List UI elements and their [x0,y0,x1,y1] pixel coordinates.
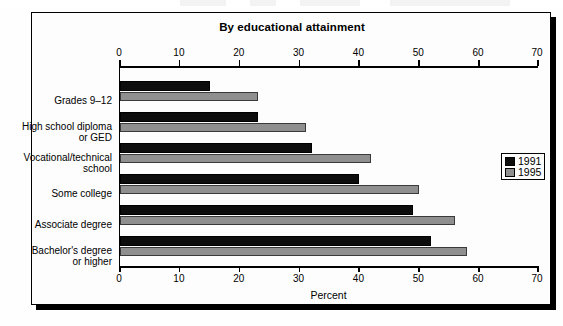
category-label: High school diplomaor GED [0,121,112,144]
bar-1995 [120,185,419,195]
category-label: Grades 9–12 [0,95,112,107]
x-ticklabel-top-0: 0 [104,47,134,58]
x-axis-title: Percent [119,289,538,301]
x-tick-bottom-40 [358,266,360,272]
plot-area: 0 10 20 30 40 50 60 70 0 10 20 30 40 50 … [119,57,538,277]
x-tick-top-10 [179,60,181,66]
x-ticklabel-bottom-50: 50 [403,273,433,284]
x-tick-top-50 [418,60,420,66]
x-tick-bottom-10 [179,266,181,272]
bar-1991 [120,236,431,246]
x-axis-top-line [119,66,538,68]
x-ticklabel-top-30: 30 [284,47,314,58]
x-tick-bottom-30 [299,266,301,272]
x-tick-bottom-0 [119,266,121,272]
bar-1991 [120,112,258,122]
bar-1995 [120,123,306,133]
x-tick-top-0 [119,60,121,66]
legend-swatch-1991-icon [505,157,515,166]
bar-1995 [120,247,467,257]
legend-item-1995: 1995 [505,167,541,177]
category-label: Some college [0,188,112,200]
x-axis-bottom-line [119,266,538,268]
x-tick-top-60 [478,60,480,66]
x-tick-top-20 [239,60,241,66]
x-ticklabel-top-10: 10 [164,47,194,58]
x-ticklabel-bottom-40: 40 [343,273,373,284]
chart-frame: By educational attainment 0 10 20 30 40 … [31,12,551,305]
x-ticklabel-bottom-20: 20 [224,273,254,284]
legend-swatch-1995-icon [505,168,515,177]
x-ticklabel-bottom-0: 0 [104,273,134,284]
x-tick-top-30 [299,60,301,66]
x-tick-bottom-70 [537,266,539,272]
x-ticklabel-top-60: 60 [463,47,493,58]
legend-label-1995: 1995 [518,167,541,177]
x-ticklabel-bottom-70: 70 [522,273,552,284]
bar-1991 [120,174,359,184]
bar-1991 [120,143,312,153]
legend-item-1991: 1991 [505,156,541,166]
x-ticklabel-top-20: 20 [224,47,254,58]
page-top-sliver [0,0,563,7]
chart-screenshot: By educational attainment 0 10 20 30 40 … [0,0,563,326]
x-ticklabel-bottom-30: 30 [284,273,314,284]
x-ticklabel-top-50: 50 [403,47,433,58]
bar-1991 [120,205,413,215]
x-ticklabel-bottom-10: 10 [164,273,194,284]
bar-1991 [120,81,210,91]
x-tick-top-40 [358,60,360,66]
x-ticklabel-top-40: 40 [343,47,373,58]
category-label: Bachelor's degreeor higher [0,245,112,268]
bar-1995 [120,154,371,164]
category-label: Associate degree [0,219,112,231]
x-ticklabel-top-70: 70 [522,47,552,58]
x-tick-top-70 [537,60,539,66]
x-tick-bottom-60 [478,266,480,272]
x-ticklabel-bottom-60: 60 [463,273,493,284]
x-tick-bottom-50 [418,266,420,272]
bar-1995 [120,216,455,226]
legend-label-1991: 1991 [518,156,541,166]
chart-title: By educational attainment [32,21,552,33]
bar-1995 [120,92,258,102]
chart-legend: 1991 1995 [501,153,545,180]
x-tick-bottom-20 [239,266,241,272]
category-label: Vocational/technicalschool [0,152,112,175]
